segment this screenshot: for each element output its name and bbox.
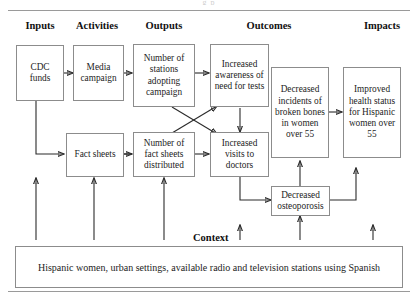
- arrow-osteoporosis-to-improved: [330, 168, 356, 200]
- node-cdc-funds[interactable]: CDC funds: [16, 45, 64, 101]
- arrow-stations-to-visits: [172, 107, 217, 134]
- node-improved-health[interactable]: Improved health status for Hispanic wome…: [343, 67, 401, 158]
- node-increased-awareness[interactable]: Increased awareness of need for tests: [210, 44, 269, 107]
- arrow-distributed-to-awareness: [172, 106, 217, 133]
- node-decreased-osteoporosis[interactable]: Decreased osteoporosis: [271, 186, 330, 216]
- context-label: Context: [193, 232, 229, 243]
- context-box[interactable]: Hispanic women, urban settings, availabl…: [15, 246, 403, 288]
- node-increased-visits[interactable]: Increased visits to doctors: [210, 132, 269, 177]
- node-stations-adopting[interactable]: Number of stations adopting campaign: [133, 44, 195, 107]
- node-media-campaign[interactable]: Media campaign: [73, 45, 124, 101]
- node-fact-sheets[interactable]: Fact sheets: [66, 133, 124, 177]
- node-fact-sheets-distributed[interactable]: Number of fact sheets distributed: [133, 132, 195, 177]
- arrow-visits-to-osteoporosis: [240, 177, 271, 200]
- logic-model-figure: g p Inputs Activities Outputs Outcomes I…: [0, 0, 418, 304]
- arrow-cdc-to-factsheets: [36, 100, 64, 154]
- node-decreased-incidents[interactable]: Decreased incidents of broken bones in w…: [271, 67, 329, 158]
